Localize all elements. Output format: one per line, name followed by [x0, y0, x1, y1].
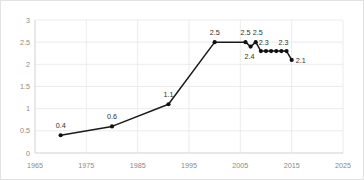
data-point-label: 2.5: [240, 28, 250, 37]
x-tick-label: 1995: [181, 161, 197, 170]
data-point-labels: 0.40.61.12.52.52.42.52.32.32.1: [56, 28, 306, 130]
data-point-label: 2.3: [278, 38, 288, 47]
data-point-label: 2.5: [210, 28, 220, 37]
data-point-marker: [249, 45, 253, 49]
line-chart: 00.511.522.53 19651975198519952005201520…: [0, 0, 364, 180]
data-point-marker: [166, 102, 170, 106]
x-tick-label: 2005: [232, 161, 248, 170]
y-tick-label: 1.5: [20, 82, 30, 91]
data-point-marker: [264, 49, 268, 53]
data-point-label: 2.1: [296, 56, 306, 65]
data-point-label: 1.1: [163, 90, 173, 99]
x-tick-label: 2025: [335, 161, 351, 170]
data-point-marker: [259, 49, 263, 53]
y-tick-label: 0: [26, 149, 30, 158]
data-point-marker: [254, 40, 258, 44]
chart-plot-area: 00.511.522.53 19651975198519952005201520…: [1, 1, 364, 180]
data-point-marker: [284, 49, 288, 53]
y-tick-label: 1: [26, 104, 30, 113]
data-point-label: 2.4: [245, 52, 255, 61]
data-point-label: 0.6: [107, 112, 117, 121]
y-tick-label: 3: [26, 16, 30, 25]
data-point-label: 2.3: [259, 38, 269, 47]
x-tick-label: 1975: [78, 161, 94, 170]
data-point-marker: [110, 124, 114, 128]
x-tick-label: 1985: [130, 161, 146, 170]
data-point-label: 2.5: [253, 28, 263, 37]
data-point-marker: [279, 49, 283, 53]
x-tick-label: 1965: [27, 161, 43, 170]
y-tick-label: 2: [26, 60, 30, 69]
data-point-marker: [290, 58, 294, 62]
data-point-label: 0.4: [56, 121, 66, 130]
data-point-markers: [59, 40, 294, 137]
data-point-marker: [269, 49, 273, 53]
data-point-marker: [274, 49, 278, 53]
y-tick-label: 0.5: [20, 126, 30, 135]
data-series-line: [61, 42, 292, 135]
data-point-marker: [243, 40, 247, 44]
x-axis-tick-labels: 1965197519851995200520152025: [27, 161, 351, 170]
y-axis-tick-labels: 00.511.522.53: [20, 16, 30, 158]
data-point-marker: [213, 40, 217, 44]
x-tick-label: 2015: [284, 161, 300, 170]
data-point-marker: [59, 133, 63, 137]
y-tick-label: 2.5: [20, 38, 30, 47]
grid-lines: [35, 20, 343, 153]
